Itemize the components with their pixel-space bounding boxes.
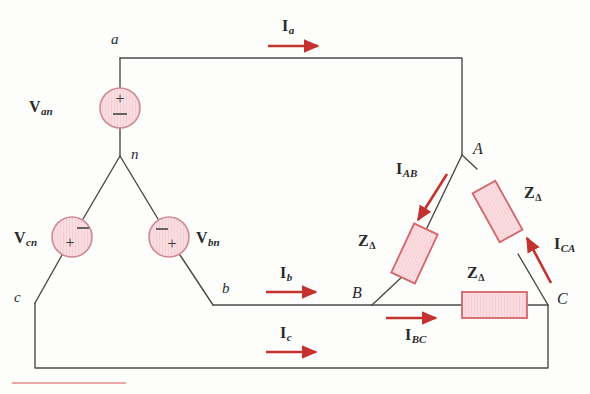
- node-label-c: c: [14, 290, 21, 305]
- current-label-ica-subscript: CA: [561, 242, 576, 254]
- source-vcn[interactable]: +: [52, 217, 92, 257]
- impedance-z-ab-body[interactable]: [391, 224, 437, 284]
- node-label-b: b: [222, 281, 230, 296]
- current-label-ica-symbol: I: [554, 235, 560, 252]
- impedance-label-z-ab-symbol: Z: [358, 232, 369, 249]
- current-label-ib: Ib: [280, 265, 292, 283]
- node-label-B: B: [352, 285, 362, 301]
- impedance-label-z-ca: ZΔ: [524, 185, 541, 203]
- impedance-z-ab[interactable]: [391, 224, 437, 284]
- current-label-ic: Ic: [280, 325, 292, 343]
- current-label-ibc-symbol: I: [405, 326, 411, 343]
- node-label-C: C: [557, 291, 568, 307]
- impedance-label-z-bc: ZΔ: [467, 265, 484, 283]
- source-label-vbn: Vbn: [196, 230, 220, 248]
- wire-n-to-vcn: [83, 156, 120, 219]
- impedance-z-ca[interactable]: [473, 181, 523, 243]
- source-label-vcn-symbol: V: [14, 229, 26, 246]
- source-label-vcn: Vcn: [14, 230, 37, 248]
- node-label-A: A: [473, 141, 483, 157]
- impedance-label-z-bc-symbol: Z: [467, 264, 478, 281]
- impedance-label-z-ab-subscript: Δ: [369, 240, 375, 251]
- source-label-vbn-symbol: V: [196, 229, 208, 246]
- wire-vcn-to-c: [35, 255, 62, 303]
- current-label-ibc: IBC: [405, 327, 426, 345]
- source-van-plus: +: [115, 90, 124, 107]
- current-label-ia: Ia: [282, 18, 294, 36]
- current-label-ic-subscript: c: [287, 331, 292, 343]
- current-label-iab-subscript: AB: [403, 167, 418, 179]
- source-vbn-plus: +: [167, 235, 176, 252]
- impedance-z-bc-body[interactable]: [462, 292, 527, 318]
- impedance-label-z-bc-subscript: Δ: [478, 272, 484, 283]
- source-label-van-symbol: V: [29, 98, 41, 115]
- current-arrow-iab: [418, 174, 447, 220]
- impedance-label-z-ab: ZΔ: [358, 233, 375, 251]
- wire-n-to-vbn: [120, 156, 158, 219]
- current-label-ibc-subscript: BC: [412, 333, 427, 345]
- source-vbn[interactable]: +: [149, 217, 189, 257]
- impedance-label-z-ca-symbol: Z: [524, 184, 535, 201]
- wire-zab-to-B: [372, 275, 404, 305]
- node-label-a: a: [111, 32, 119, 47]
- source-label-vbn-subscript: bn: [208, 236, 220, 248]
- wire-A-to-zca: [462, 155, 477, 169]
- current-label-ib-symbol: I: [280, 264, 286, 281]
- wire-line-a: [120, 58, 462, 155]
- current-label-iab: IAB: [396, 161, 417, 179]
- current-label-ic-symbol: I: [280, 324, 286, 341]
- source-vcn-plus: +: [65, 234, 74, 251]
- source-label-van-subscript: an: [41, 105, 53, 117]
- node-label-n: n: [131, 147, 139, 162]
- source-label-vcn-subscript: cn: [26, 236, 37, 248]
- circuit-diagram: + + +: [0, 0, 590, 394]
- source-label-van: Van: [29, 99, 53, 117]
- wire-A-to-zab: [425, 155, 462, 232]
- current-label-iab-symbol: I: [396, 160, 402, 177]
- current-label-ib-subscript: b: [287, 271, 293, 283]
- current-label-ica: ICA: [554, 236, 575, 254]
- current-label-ia-symbol: I: [282, 17, 288, 34]
- impedance-z-bc[interactable]: [462, 292, 527, 318]
- current-label-ia-subscript: a: [289, 24, 295, 36]
- impedance-label-z-ca-subscript: Δ: [535, 192, 541, 203]
- figure-canvas: + + +: [0, 0, 590, 394]
- source-van[interactable]: +: [100, 88, 140, 128]
- wire-vbn-to-b: [180, 255, 213, 305]
- impedance-z-ca-body[interactable]: [473, 181, 523, 243]
